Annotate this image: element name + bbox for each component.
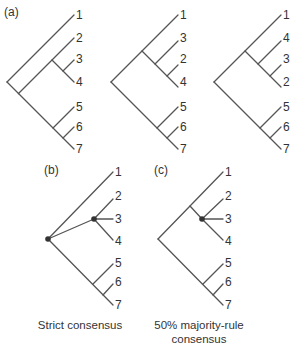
tip-label: 7 (283, 142, 290, 156)
tip-label: 6 (76, 120, 83, 134)
tip-label: 2 (115, 189, 122, 203)
branch (111, 82, 178, 149)
tip-label: 4 (115, 234, 122, 248)
branch (94, 219, 113, 240)
tip-label: 3 (283, 52, 290, 66)
branch (157, 107, 178, 128)
branch (19, 94, 75, 150)
tip-label: 3 (180, 31, 187, 45)
branch (202, 219, 223, 240)
branch (158, 172, 223, 239)
tree-majority-rule-consensus: 1 2 3 4 5 6 7 (158, 165, 232, 312)
tip-label: 1 (283, 8, 290, 22)
tip-label: 5 (225, 256, 232, 270)
tip-label: 6 (225, 275, 232, 289)
branch (142, 51, 178, 87)
tip-label: 2 (180, 52, 187, 66)
panel-label-c: (c) (154, 163, 168, 177)
tip-label: 1 (225, 165, 232, 179)
phylogeny-figure: (a) 1 2 3 4 5 6 7 1 3 2 4 5 6 7 (0, 0, 294, 348)
branch (245, 51, 281, 87)
polytomy-node-root (45, 236, 51, 242)
branch (111, 15, 178, 82)
tip-label: 4 (225, 234, 232, 248)
branch (155, 41, 178, 64)
branch (213, 284, 223, 295)
tip-label: 7 (76, 142, 83, 156)
branch (203, 264, 223, 284)
tip-label: 1 (76, 8, 83, 22)
branch (258, 41, 281, 64)
branch (270, 127, 281, 138)
branch (93, 264, 113, 284)
branch (202, 199, 223, 219)
caption-strict-consensus: Strict consensus (38, 319, 123, 331)
tip-label: 3 (76, 52, 83, 66)
caption-majority-rule-line2: consensus (172, 333, 227, 345)
tip-label: 2 (76, 31, 83, 45)
polytomy-node (199, 216, 205, 222)
polytomy-node (91, 216, 97, 222)
tip-label: 4 (180, 75, 187, 89)
tip-label: 5 (76, 100, 83, 114)
branch (48, 219, 94, 239)
branch (53, 107, 74, 128)
branch (214, 82, 281, 149)
tip-label: 6 (180, 120, 187, 134)
tip-label: 7 (225, 298, 232, 312)
branch (63, 60, 74, 71)
tip-label: 2 (225, 189, 232, 203)
tip-label: 4 (76, 75, 83, 89)
tip-label: 2 (283, 75, 290, 89)
panel-label-a: (a) (4, 5, 19, 19)
branch (260, 107, 281, 128)
tip-label: 4 (283, 31, 290, 45)
panel-label-b: (b) (44, 163, 59, 177)
branch (270, 65, 281, 76)
tree-strict-consensus: 1 2 3 4 5 6 7 (45, 165, 122, 312)
tip-label: 6 (115, 275, 122, 289)
tip-label: 1 (180, 8, 187, 22)
branch (19, 38, 75, 94)
tip-label: 5 (283, 100, 290, 114)
branch (214, 15, 281, 82)
branch (63, 127, 74, 138)
tree-a3: 1 4 3 2 5 6 7 (214, 8, 290, 156)
branch (167, 127, 178, 138)
tip-label: 7 (180, 142, 187, 156)
tip-label: 5 (115, 256, 122, 270)
branch (103, 284, 113, 295)
tip-label: 3 (115, 212, 122, 226)
tip-label: 3 (225, 212, 232, 226)
tip-label: 6 (283, 120, 290, 134)
branch (167, 65, 178, 76)
tip-label: 5 (180, 100, 187, 114)
tip-label: 7 (115, 298, 122, 312)
branch (94, 199, 113, 219)
branch (7, 82, 19, 94)
tree-a2: 1 3 2 4 5 6 7 (111, 8, 187, 156)
tree-a1: 1 2 3 4 5 6 7 (7, 8, 83, 156)
caption-majority-rule-line1: 50% majority-rule (154, 319, 243, 331)
tip-label: 1 (115, 165, 122, 179)
